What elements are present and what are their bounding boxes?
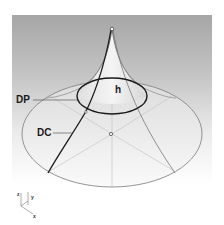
apex-point	[110, 27, 114, 31]
axis-label-z: z	[17, 191, 20, 197]
label-h: h	[115, 84, 121, 95]
center-point	[109, 132, 112, 135]
label-dc: DC	[37, 127, 51, 138]
axis-label-x: x	[33, 213, 36, 219]
label-dp: DP	[16, 94, 30, 105]
intersection-point	[85, 111, 87, 113]
cone-surface-diagram: h DP DC z y x	[0, 0, 224, 225]
axis-label-y: y	[31, 194, 34, 200]
